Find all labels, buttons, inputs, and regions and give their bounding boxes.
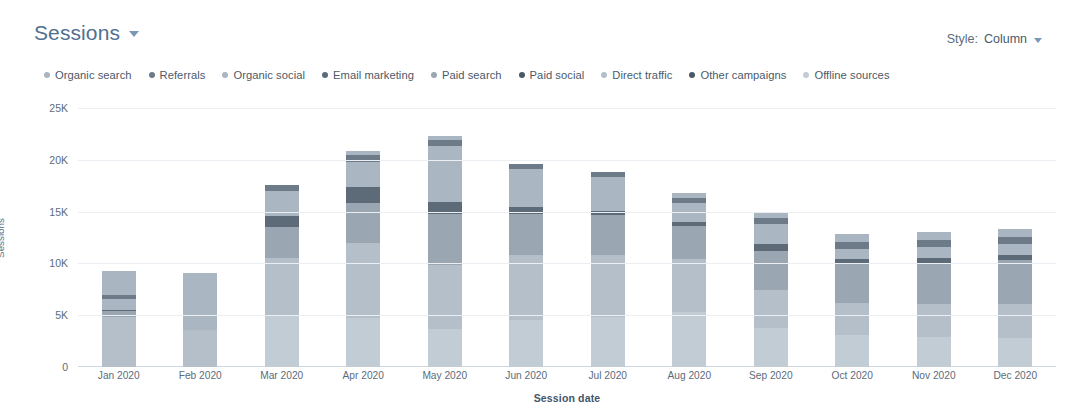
bar-segment[interactable] — [265, 316, 299, 367]
stacked-bar[interactable] — [509, 164, 543, 367]
bar-segment[interactable] — [835, 242, 869, 249]
bar-segment[interactable] — [346, 162, 380, 187]
stacked-bar[interactable] — [346, 151, 380, 367]
legend-dot-icon — [519, 72, 525, 78]
stacked-bar[interactable] — [835, 234, 869, 367]
bar-segment[interactable] — [265, 258, 299, 316]
bar-segment[interactable] — [917, 232, 951, 239]
legend-item-referrals[interactable]: Referrals — [149, 69, 206, 81]
legend-item-organic-search[interactable]: Organic search — [44, 69, 132, 81]
stacked-bar[interactable] — [917, 232, 951, 367]
x-tick-label: Dec 2020 — [975, 370, 1057, 388]
legend-item-other-campaigns[interactable]: Other campaigns — [689, 69, 786, 81]
stacked-bar[interactable] — [754, 212, 788, 367]
legend-item-email-marketing[interactable]: Email marketing — [322, 69, 414, 81]
legend-dot-icon — [44, 72, 50, 78]
bar-segment[interactable] — [428, 214, 462, 266]
bar-segment[interactable] — [591, 255, 625, 317]
bar-segment[interactable] — [102, 271, 136, 295]
x-tick-label: Sep 2020 — [730, 370, 812, 388]
bar-slot — [241, 108, 323, 367]
stacked-bar[interactable] — [428, 136, 462, 367]
stacked-bar[interactable] — [102, 271, 136, 367]
bar-segment[interactable] — [183, 330, 217, 367]
bar-segment[interactable] — [672, 312, 706, 367]
bar-slot — [404, 108, 486, 367]
bar-segment[interactable] — [102, 299, 136, 310]
bar-segment[interactable] — [998, 260, 1032, 304]
legend-item-offline-sources[interactable]: Offline sources — [803, 69, 889, 81]
bar-segment[interactable] — [998, 244, 1032, 255]
page-title: Sessions — [34, 22, 120, 43]
bar-segment[interactable] — [835, 234, 869, 241]
bar-segment[interactable] — [509, 320, 543, 367]
stacked-bar[interactable] — [672, 193, 706, 367]
legend-item-direct-traffic[interactable]: Direct traffic — [601, 69, 672, 81]
bar-segment[interactable] — [428, 265, 462, 328]
x-tick-label: Apr 2020 — [323, 370, 405, 388]
bar-segment[interactable] — [754, 244, 788, 251]
bar-slot — [812, 108, 894, 367]
legend-item-paid-search[interactable]: Paid search — [431, 69, 502, 81]
x-tick-label: Oct 2020 — [812, 370, 894, 388]
bar-segment[interactable] — [754, 224, 788, 244]
x-tick-label: Jan 2020 — [78, 370, 160, 388]
bar-segment[interactable] — [672, 259, 706, 312]
bar-segment[interactable] — [428, 146, 462, 202]
y-tick-label: 25K — [24, 102, 68, 114]
legend-item-label: Direct traffic — [612, 69, 672, 81]
bar-segment[interactable] — [998, 237, 1032, 244]
bar-segment[interactable] — [835, 249, 869, 259]
bar-segment[interactable] — [754, 251, 788, 290]
bar-segment[interactable] — [835, 264, 869, 302]
bar-segment[interactable] — [754, 290, 788, 327]
style-value: Column — [984, 32, 1027, 46]
legend-item-organic-social[interactable]: Organic social — [222, 69, 305, 81]
stacked-bar[interactable] — [591, 172, 625, 367]
bar-segment[interactable] — [346, 187, 380, 204]
stacked-bar[interactable] — [183, 273, 217, 367]
style-selector[interactable]: Style: Column — [947, 32, 1042, 46]
bar-segment[interactable] — [917, 240, 951, 247]
x-axis-ticks: Jan 2020Feb 2020Mar 2020Apr 2020May 2020… — [78, 370, 1056, 388]
legend-item-label: Referrals — [160, 69, 206, 81]
bar-segment[interactable] — [998, 304, 1032, 338]
bar-segment[interactable] — [265, 227, 299, 258]
bar-segment[interactable] — [917, 304, 951, 337]
bar-segment[interactable] — [509, 169, 543, 207]
x-tick-label: May 2020 — [404, 370, 486, 388]
bar-segment[interactable] — [672, 226, 706, 259]
bar-segment[interactable] — [102, 317, 136, 367]
bar-slot — [975, 108, 1057, 367]
bar-segment[interactable] — [265, 216, 299, 227]
bar-segment[interactable] — [591, 215, 625, 255]
bar-segment[interactable] — [835, 335, 869, 367]
bar-group — [78, 108, 1056, 367]
bar-segment[interactable] — [509, 214, 543, 255]
bar-slot — [486, 108, 568, 367]
bar-segment[interactable] — [428, 329, 462, 367]
bar-segment[interactable] — [346, 318, 380, 367]
bar-segment[interactable] — [917, 263, 951, 303]
bar-segment[interactable] — [917, 247, 951, 258]
bar-segment[interactable] — [917, 337, 951, 367]
bar-segment[interactable] — [509, 255, 543, 320]
bar-segment[interactable] — [591, 317, 625, 367]
bar-segment[interactable] — [346, 155, 380, 162]
legend-item-paid-social[interactable]: Paid social — [519, 69, 585, 81]
bar-segment[interactable] — [591, 177, 625, 210]
bar-segment[interactable] — [346, 203, 380, 242]
bar-segment[interactable] — [998, 229, 1032, 236]
bar-segment[interactable] — [835, 303, 869, 335]
bar-segment[interactable] — [183, 273, 217, 330]
y-axis-title: Sessions — [0, 218, 6, 258]
legend-dot-icon — [431, 72, 437, 78]
gridline — [78, 160, 1056, 161]
chart-title-dropdown[interactable]: Sessions — [34, 22, 139, 43]
bar-segment[interactable] — [754, 328, 788, 367]
bar-segment[interactable] — [998, 338, 1032, 367]
bar-segment[interactable] — [346, 243, 380, 319]
stacked-bar[interactable] — [998, 229, 1032, 367]
bar-segment[interactable] — [672, 203, 706, 222]
gridline — [78, 263, 1056, 264]
